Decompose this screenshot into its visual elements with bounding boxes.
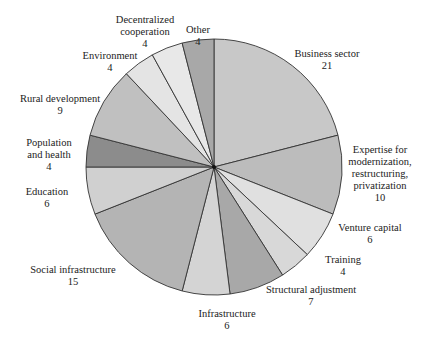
slice-label: Rural development9: [20, 93, 100, 117]
slice-value: 9: [20, 105, 100, 117]
slice-value: 4: [325, 266, 361, 278]
slice-value: 4: [26, 161, 72, 173]
slice-label: Populationand health4: [26, 137, 72, 173]
slice-label: Structural adjustment7: [266, 284, 356, 308]
slice-label: Training4: [325, 254, 361, 278]
slice-value: 4: [186, 36, 210, 48]
slice-label-text: Rural development: [20, 93, 100, 105]
slice-value: 6: [338, 234, 401, 246]
slice-label-text: Decentralized: [116, 14, 174, 26]
slice-label-text: Education: [26, 186, 69, 198]
slice-value: 6: [198, 320, 255, 332]
slice-label-text: Structural adjustment: [266, 284, 356, 296]
slice-label-text: Training: [325, 254, 361, 266]
slice-label-text: Other: [186, 24, 210, 36]
slice-label-text: privatization: [348, 180, 411, 192]
slice-label-text: cooperation: [116, 26, 174, 38]
slice-label: Business sector21: [294, 48, 359, 72]
slice-label-text: restructuring,: [348, 168, 411, 180]
slice-label: Expertise formodernization,restructuring…: [348, 144, 411, 204]
slice-label-text: modernization,: [348, 156, 411, 168]
slice-label-text: and health: [26, 149, 72, 161]
slice-value: 10: [348, 192, 411, 204]
slice-label-text: Social infrastructure: [30, 264, 115, 276]
slice-value: 21: [294, 60, 359, 72]
slice-label-text: Infrastructure: [198, 308, 255, 320]
slice-label-text: Venture capital: [338, 222, 401, 234]
slice-label: Other4: [186, 24, 210, 48]
slice-label: Infrastructure6: [198, 308, 255, 332]
pie-center-dot: [212, 165, 216, 169]
slice-label: Decentralizedcooperation4: [116, 14, 174, 50]
slice-value: 15: [30, 276, 115, 288]
slice-label-text: Business sector: [294, 48, 359, 60]
slice-label: Environment4: [83, 50, 138, 74]
slice-label-text: Environment: [83, 50, 138, 62]
slice-label-text: Expertise for: [348, 144, 411, 156]
slice-value: 4: [116, 38, 174, 50]
slice-label-text: Population: [26, 137, 72, 149]
slice-value: 4: [83, 62, 138, 74]
slice-value: 7: [266, 296, 356, 308]
slice-label: Social infrastructure15: [30, 264, 115, 288]
slice-label: Venture capital6: [338, 222, 401, 246]
slice-label: Education6: [26, 186, 69, 210]
slice-value: 6: [26, 198, 69, 210]
